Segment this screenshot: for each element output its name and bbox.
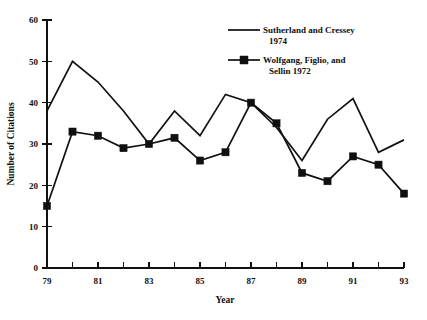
series-marker-point xyxy=(196,157,203,164)
series-marker-point xyxy=(324,178,331,185)
x-tick-label: 91 xyxy=(349,276,359,286)
x-axis-title: Year xyxy=(216,295,236,305)
chart-canvas: 0102030405060 7981838587899193 Number of… xyxy=(0,0,427,320)
series-marker-point xyxy=(145,140,152,147)
series-marker-point xyxy=(247,99,254,106)
legend-swatch-marker xyxy=(240,56,248,64)
y-tick-label: 60 xyxy=(29,15,39,25)
series-marker-point xyxy=(273,120,280,127)
series-marker-point xyxy=(349,153,356,160)
citation-line-chart: 0102030405060 7981838587899193 Number of… xyxy=(0,0,427,320)
x-tick-label: 79 xyxy=(43,276,53,286)
legend-label-line2: 1974 xyxy=(269,36,288,46)
legend-label-line1: Wolfgang, Figlio, and xyxy=(263,55,346,65)
legend-label-line1: Sutherland and Cressey xyxy=(263,25,355,35)
series-marker-point xyxy=(120,145,127,152)
series-marker-point xyxy=(298,169,305,176)
y-tick-label: 20 xyxy=(29,181,39,191)
series-marker-point xyxy=(69,128,76,135)
x-tick-label: 83 xyxy=(145,276,155,286)
series-marker-point xyxy=(400,190,407,197)
x-tick-label: 93 xyxy=(400,276,410,286)
x-tick-label: 85 xyxy=(196,276,206,286)
y-axis-title: Number of Citations xyxy=(6,102,16,186)
y-tick-label: 0 xyxy=(34,263,39,273)
x-tick-label: 81 xyxy=(94,276,104,286)
y-tick-label: 30 xyxy=(29,139,39,149)
y-tick-label: 40 xyxy=(29,98,39,108)
x-tick-label: 87 xyxy=(247,276,257,286)
series-marker-point xyxy=(375,161,382,168)
series-marker-point xyxy=(171,134,178,141)
x-tick-label: 89 xyxy=(298,276,308,286)
y-tick-label: 10 xyxy=(29,222,39,232)
y-tick-label: 50 xyxy=(29,57,39,67)
series-marker-point xyxy=(222,149,229,156)
legend-label-line2: Sellin 1972 xyxy=(269,66,311,76)
series-marker-point xyxy=(43,202,50,209)
series-marker-point xyxy=(94,132,101,139)
